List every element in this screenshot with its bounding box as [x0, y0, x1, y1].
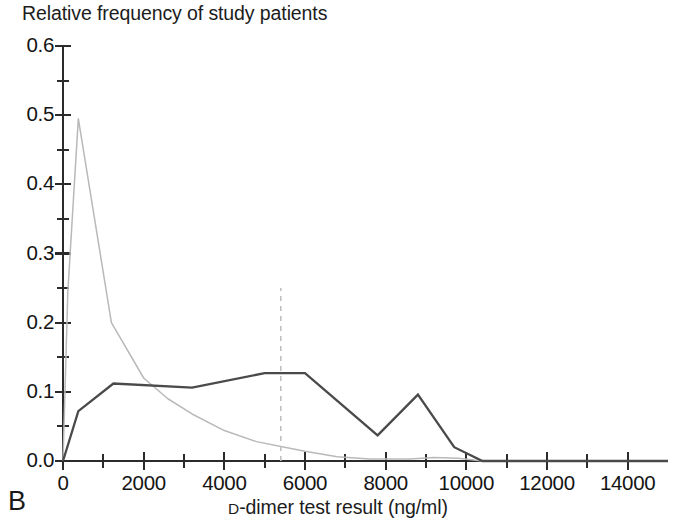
y-tick-label: 0.6 — [2, 33, 54, 57]
y-tick-label: 0.1 — [2, 379, 54, 403]
x-tick-label: 4000 — [202, 471, 246, 495]
x-tick-label: 2000 — [121, 471, 165, 495]
y-tick-label: 0.3 — [2, 241, 54, 265]
axes-group — [63, 46, 668, 461]
series-line-dark — [63, 373, 668, 461]
y-tick-label: 0.5 — [2, 102, 54, 126]
y-tick-label: 0.2 — [2, 310, 54, 334]
x-axis-title: D-dimer test result (ng/ml) — [0, 496, 676, 519]
x-tick-label: 14000 — [600, 471, 656, 495]
figure-panel-b: Relative frequency of study patients 0.0… — [0, 0, 676, 524]
x-tick-label: 0 — [57, 471, 68, 495]
x-tick-label: 8000 — [363, 471, 407, 495]
y-tick-label: 0.4 — [2, 171, 54, 195]
x-tick-label: 6000 — [283, 471, 327, 495]
data-series-group — [63, 119, 668, 461]
x-tick-label: 12000 — [519, 471, 575, 495]
x-tick-label: 10000 — [439, 471, 495, 495]
chart-plot-area — [0, 0, 676, 524]
x-axis-title-rest: -dimer test result (ng/ml) — [239, 496, 448, 518]
y-tick-label: 0.0 — [2, 448, 54, 472]
series-line-light — [63, 119, 668, 461]
x-axis-title-prefix: D — [228, 500, 239, 517]
